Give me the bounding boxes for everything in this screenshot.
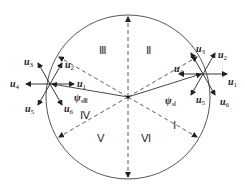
right-u2-label: u2 <box>218 50 227 62</box>
left-u5-label: u5 <box>25 104 34 116</box>
right-u5-label: u5 <box>196 95 205 107</box>
sector-label-1: Ⅰ <box>173 120 176 131</box>
sector-label-6: Ⅵ <box>141 133 151 144</box>
right-u1-label: u1 <box>228 77 237 89</box>
right-u4-label: u4 <box>174 64 183 76</box>
right-u6-label: u6 <box>220 97 229 109</box>
left-u1-label: u1 <box>77 79 86 91</box>
sector-label-5: Ⅴ <box>97 133 105 144</box>
left-u4-label: u4 <box>10 79 19 91</box>
left-u2-label: u2 <box>65 60 74 72</box>
origin-point <box>127 96 130 99</box>
sector-label-4: Ⅳ <box>80 110 90 121</box>
sector-diagram <box>0 0 245 192</box>
right-u3-label: u3 <box>196 44 205 56</box>
sector-label-2: Ⅱ <box>146 45 151 56</box>
sector-label-3: Ⅲ <box>99 45 107 56</box>
right-flux-label: ψsⅠ <box>165 96 176 108</box>
left-flux-label: ψsⅢ <box>74 93 88 105</box>
left-u3-label: u3 <box>24 57 33 69</box>
left-u6-label: u6 <box>64 104 73 116</box>
